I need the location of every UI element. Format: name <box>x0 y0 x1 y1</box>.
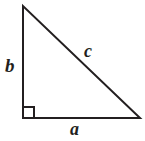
side-label-a: a <box>70 120 79 138</box>
side-label-b: b <box>5 56 15 75</box>
right-triangle-figure: b c a <box>0 0 145 141</box>
side-label-c: c <box>84 42 92 60</box>
